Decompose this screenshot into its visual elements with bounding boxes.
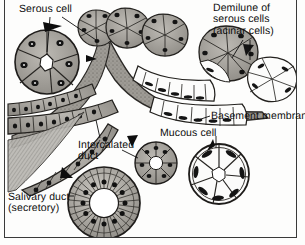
intercalated-duct-inset — [135, 142, 177, 184]
acinus-far-right — [247, 57, 297, 101]
label-salivary-duct: Salivary duct (secretory) — [8, 192, 69, 215]
histology-figure: Serous cell Demilune of serous cells (ac… — [0, 0, 305, 245]
duct-lumen — [90, 189, 119, 218]
leader-intercalated-1 — [96, 120, 100, 138]
mucous-acinus-inset — [189, 144, 249, 204]
acinus-upper-right — [142, 14, 188, 56]
label-intercalated-duct: Intercalated duct — [78, 140, 134, 163]
label-demilune-of-serous-cells: Demilune of serous cells (acinar cells) — [213, 3, 274, 37]
label-basement-membrane: Basement membrane — [211, 111, 305, 122]
duct-lumen — [149, 156, 162, 169]
label-mucous-cell: Mucous cell — [160, 128, 217, 139]
label-serous-cell: Serous cell — [19, 4, 72, 15]
salivary-duct-inset — [68, 167, 140, 239]
serous-acinus-inset — [15, 30, 79, 94]
